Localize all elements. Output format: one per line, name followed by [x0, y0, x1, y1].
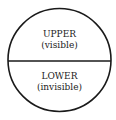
circle-outline [8, 9, 111, 112]
divided-circle-diagram: UPPER (visible) LOWER (invisible) [0, 0, 116, 120]
upper-subtitle: (visible) [8, 40, 111, 51]
upper-title: UPPER [8, 29, 111, 40]
lower-title: LOWER [8, 71, 111, 82]
circle-outline-graphic [0, 0, 116, 120]
lower-subtitle: (invisible) [8, 82, 111, 93]
lower-half-label: LOWER (invisible) [8, 71, 111, 93]
upper-half-label: UPPER (visible) [8, 29, 111, 51]
